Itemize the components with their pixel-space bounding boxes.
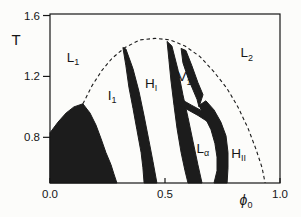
band-I1-HI: [123, 48, 157, 184]
phase-diagram-figure: 0.81.21.60.00.51.0Tϕ0L1I1HIV1L2LαHII: [0, 0, 301, 217]
region-Lalpha: Lα: [197, 141, 210, 159]
y-tick-label: 1.6: [24, 10, 40, 22]
x-tick-label: 0.0: [42, 188, 58, 200]
x-tick-label: 1.0: [272, 188, 288, 200]
y-tick-label: 1.2: [24, 70, 40, 82]
region-L1: L1: [67, 50, 80, 68]
y-tick-label: 0.8: [24, 131, 40, 143]
y-axis-label: T: [11, 31, 20, 48]
region-I1: I1: [108, 88, 117, 106]
x-tick-label: 0.5: [157, 188, 173, 200]
region-L2: L2: [240, 45, 253, 63]
phase-diagram-canvas: 0.81.21.60.00.51.0Tϕ0L1I1HIV1L2LαHII: [0, 0, 301, 217]
solid-crystal-region: [50, 104, 117, 183]
region-HI: HI: [145, 76, 157, 94]
region-HII: HII: [231, 146, 246, 164]
x-axis-label: ϕ0: [240, 192, 253, 210]
